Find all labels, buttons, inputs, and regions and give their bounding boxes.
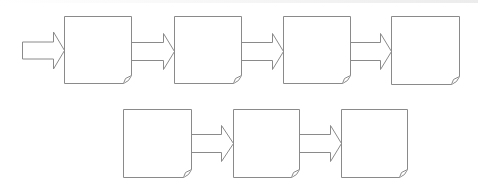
note-body <box>65 17 132 84</box>
box-2-note-shape[interactable] <box>175 17 242 84</box>
box-6-note-shape[interactable] <box>234 110 300 178</box>
arrow-6-7-block-arrow-icon <box>300 126 342 162</box>
arrow-2-3-block-arrow-icon <box>242 34 284 70</box>
box-1-note-shape[interactable] <box>65 17 132 84</box>
nodes-layer <box>65 17 460 178</box>
box-5-note-shape[interactable] <box>124 110 192 178</box>
arrow-5-6-block-arrow-icon <box>192 126 234 162</box>
note-body <box>175 17 242 84</box>
process-flow-diagram <box>0 0 478 192</box>
note-body <box>392 17 460 85</box>
note-body <box>342 110 408 178</box>
arrow-3-4-block-arrow-icon <box>351 34 392 70</box>
box-7-note-shape[interactable] <box>342 110 408 178</box>
arrow-1-2-block-arrow-icon <box>132 34 175 70</box>
arrow-in-block-arrow-icon <box>23 32 65 69</box>
note-body <box>284 17 351 84</box>
box-3-note-shape[interactable] <box>284 17 351 84</box>
box-4-note-shape[interactable] <box>392 17 460 85</box>
note-body <box>124 110 192 178</box>
note-body <box>234 110 300 178</box>
